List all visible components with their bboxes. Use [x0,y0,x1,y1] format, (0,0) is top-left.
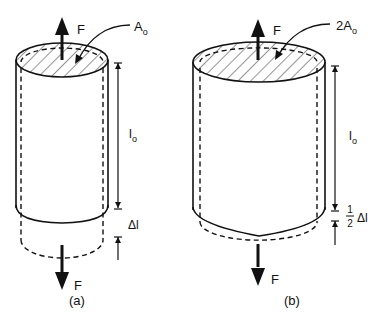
svg-text:Δl: Δl [357,211,368,225]
svg-text:1: 1 [347,204,353,215]
caption-a: (a) [69,293,85,308]
force-label-top-a: F [77,22,85,37]
panel-b: F F 2Ao lo 1 2 Δl (b) [192,18,368,308]
area-label-a: Ao [134,19,148,37]
elongation-dimension-b [331,221,339,245]
tensile-elongation-diagram: F F Ao lo Δl (a) [0,0,384,320]
caption-b: (b) [284,293,300,308]
original-cylinder-b [192,41,326,236]
length-dimension-b [331,66,339,211]
deformed-cylinder-outline-a [21,48,103,258]
panel-a: F F Ao lo Δl (a) [16,17,148,308]
length-label-b: lo [349,128,357,146]
original-cylinder-a [16,43,108,223]
force-label-top-b: F [273,23,281,38]
force-label-bottom-b: F [271,272,279,287]
force-arrow-down-b [251,244,265,286]
length-label-a: lo [129,126,137,144]
force-arrow-down-a [55,245,69,290]
elongation-label-a: Δl [128,218,139,232]
force-label-bottom-a: F [74,278,82,293]
elongation-label-b: 1 2 Δl [346,204,368,229]
svg-text:2: 2 [347,218,353,229]
area-label-b: 2Ao [336,18,357,36]
length-dimension-a [114,63,122,209]
elongation-dimension-a [114,237,122,260]
